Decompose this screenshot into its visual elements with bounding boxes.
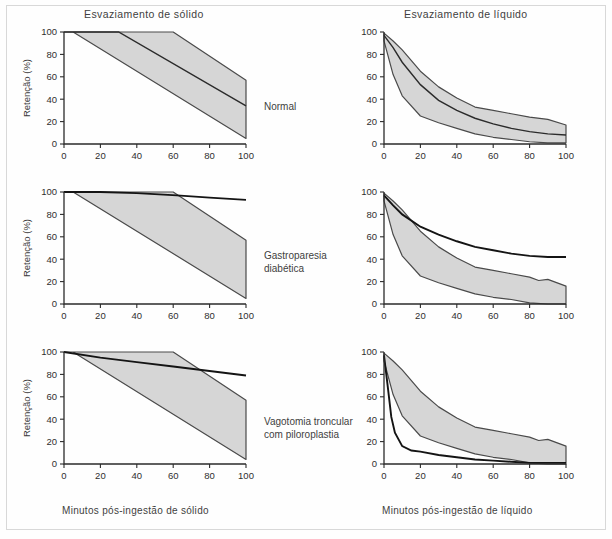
y-tick-label: 80 xyxy=(46,369,57,380)
y-tick-label: 80 xyxy=(46,49,57,60)
x-tick-label: 0 xyxy=(381,470,386,481)
column-title-liquid: Esvaziamento de líquido xyxy=(404,8,528,20)
chart-svg-normal-liquid: 020406080100020406080100 xyxy=(338,22,578,172)
x-tick-label: 40 xyxy=(452,310,463,321)
y-tick-label: 60 xyxy=(366,71,377,82)
chart-vagotomy-solid: 020406080100020406080100Retenção (%) xyxy=(18,342,258,492)
chart-gastroparesis-liquid: 020406080100020406080100 xyxy=(338,182,578,332)
x-tick-label: 60 xyxy=(488,470,499,481)
x-tick-label: 0 xyxy=(61,470,66,481)
y-tick-label: 80 xyxy=(366,369,377,380)
y-tick-label: 40 xyxy=(46,94,57,105)
x-tick-label: 80 xyxy=(524,470,535,481)
x-tick-label: 60 xyxy=(488,150,499,161)
row-label-vagotomy: Vagotomia troncular com piloroplastia xyxy=(264,415,360,441)
x-tick-label: 100 xyxy=(558,310,574,321)
normal-range-band xyxy=(384,33,566,143)
x-tick-label: 20 xyxy=(415,150,426,161)
x-tick-label: 20 xyxy=(95,470,106,481)
normal-range-band xyxy=(384,193,566,304)
x-tick-label: 20 xyxy=(95,150,106,161)
chart-svg-normal-solid: 020406080100020406080100Retenção (%) xyxy=(18,22,258,172)
column-title-solid: Esvaziamento de sólido xyxy=(84,8,204,20)
x-tick-label: 40 xyxy=(132,150,143,161)
x-tick-label: 20 xyxy=(95,310,106,321)
y-axis-label: Retenção (%) xyxy=(21,219,32,277)
y-tick-label: 40 xyxy=(366,94,377,105)
x-tick-label: 20 xyxy=(415,310,426,321)
row-label-normal: Normal xyxy=(264,100,360,113)
y-tick-label: 40 xyxy=(46,414,57,425)
x-tick-label: 20 xyxy=(415,470,426,481)
x-tick-label: 80 xyxy=(204,150,215,161)
y-tick-label: 80 xyxy=(366,209,377,220)
y-tick-label: 0 xyxy=(372,138,377,149)
y-tick-label: 0 xyxy=(52,298,57,309)
x-tick-label: 100 xyxy=(238,150,254,161)
x-tick-label: 60 xyxy=(168,470,179,481)
y-tick-label: 100 xyxy=(41,346,57,357)
y-tick-label: 0 xyxy=(52,458,57,469)
y-tick-label: 40 xyxy=(366,254,377,265)
chart-gastroparesis-solid: 020406080100020406080100Retenção (%) xyxy=(18,182,258,332)
y-tick-label: 20 xyxy=(366,436,377,447)
y-tick-label: 100 xyxy=(41,26,57,37)
y-tick-label: 60 xyxy=(46,231,57,242)
normal-range-band xyxy=(64,32,246,138)
x-tick-label: 0 xyxy=(381,150,386,161)
y-tick-label: 60 xyxy=(366,391,377,402)
y-tick-label: 0 xyxy=(52,138,57,149)
x-axis-caption-solid: Minutos pós-ingestão de sólido xyxy=(62,505,209,516)
chart-vagotomy-liquid: 020406080100020406080100 xyxy=(338,342,578,492)
y-tick-label: 40 xyxy=(46,254,57,265)
y-tick-label: 20 xyxy=(46,116,57,127)
y-tick-label: 80 xyxy=(366,49,377,60)
y-tick-label: 60 xyxy=(46,391,57,402)
normal-range-band xyxy=(64,192,246,298)
y-tick-label: 80 xyxy=(46,209,57,220)
x-tick-label: 100 xyxy=(558,150,574,161)
y-tick-label: 20 xyxy=(46,276,57,287)
x-tick-label: 80 xyxy=(524,310,535,321)
x-tick-label: 100 xyxy=(238,470,254,481)
y-tick-label: 60 xyxy=(46,71,57,82)
y-tick-label: 0 xyxy=(372,458,377,469)
x-tick-label: 80 xyxy=(204,470,215,481)
x-tick-label: 0 xyxy=(61,150,66,161)
gastric-emptying-figure: Esvaziamento de sólido Esvaziamento de l… xyxy=(0,0,612,539)
y-tick-label: 20 xyxy=(46,436,57,447)
x-tick-label: 80 xyxy=(524,150,535,161)
y-tick-label: 100 xyxy=(41,186,57,197)
y-axis-label: Retenção (%) xyxy=(21,59,32,117)
y-tick-label: 100 xyxy=(361,26,377,37)
x-tick-label: 0 xyxy=(381,310,386,321)
row-label-gastroparesis: Gastroparesia diabética xyxy=(264,249,360,275)
chart-svg-vagotomy-liquid: 020406080100020406080100 xyxy=(338,342,578,492)
chart-normal-liquid: 020406080100020406080100 xyxy=(338,22,578,172)
chart-normal-solid: 020406080100020406080100Retenção (%) xyxy=(18,22,258,172)
x-tick-label: 60 xyxy=(168,310,179,321)
x-axis-caption-liquid: Minutos pós-ingestão de líquido xyxy=(382,505,533,516)
y-tick-label: 40 xyxy=(366,414,377,425)
x-tick-label: 40 xyxy=(132,470,143,481)
y-tick-label: 60 xyxy=(366,231,377,242)
normal-range-band xyxy=(384,353,566,464)
x-tick-label: 40 xyxy=(452,470,463,481)
normal-range-band xyxy=(64,352,246,460)
y-tick-label: 0 xyxy=(372,298,377,309)
x-tick-label: 40 xyxy=(452,150,463,161)
x-tick-label: 0 xyxy=(61,310,66,321)
y-axis-label: Retenção (%) xyxy=(21,379,32,437)
x-tick-label: 60 xyxy=(168,150,179,161)
x-tick-label: 100 xyxy=(558,470,574,481)
x-tick-label: 100 xyxy=(238,310,254,321)
x-tick-label: 60 xyxy=(488,310,499,321)
x-tick-label: 40 xyxy=(132,310,143,321)
chart-svg-gastroparesis-solid: 020406080100020406080100Retenção (%) xyxy=(18,182,258,332)
x-tick-label: 80 xyxy=(204,310,215,321)
y-tick-label: 20 xyxy=(366,116,377,127)
y-tick-label: 20 xyxy=(366,276,377,287)
y-tick-label: 100 xyxy=(361,346,377,357)
y-tick-label: 100 xyxy=(361,186,377,197)
chart-svg-vagotomy-solid: 020406080100020406080100Retenção (%) xyxy=(18,342,258,492)
